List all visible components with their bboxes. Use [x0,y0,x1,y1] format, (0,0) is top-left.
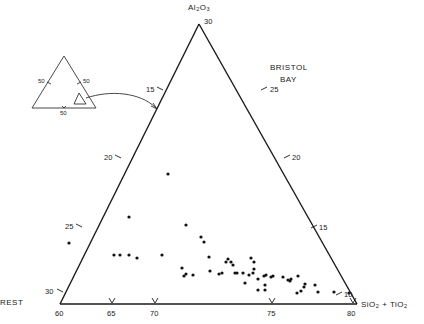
chart-title-line2: BAY [280,75,297,84]
data-point [160,253,163,256]
data-point [217,272,220,275]
tick-left-30: 30 [45,287,53,296]
data-point [166,172,169,175]
data-point [252,267,255,270]
tick-bottom-80: 80 [347,309,355,318]
data-point [252,260,255,263]
data-point [127,215,130,218]
data-point [249,256,252,259]
data-point [302,285,305,288]
data-point [281,275,284,278]
data-point [191,273,194,276]
main-triangle [60,24,357,304]
data-point [296,274,299,277]
data-point [264,273,267,276]
al2o3-formatted: Al2O3 [188,3,210,12]
tick-bottom-75: 75 [267,309,275,318]
ternary-chart [0,0,424,324]
data-point [180,266,183,269]
inset-tick-right: 50 [83,78,90,84]
data-point [224,260,227,263]
tick-bottom-70: 70 [150,309,158,318]
tick-bottom-60: 60 [55,309,63,318]
data-point [241,271,244,274]
data-point [316,290,319,293]
data-point [229,260,232,263]
data-point [118,253,121,256]
tick-left-15: 15 [146,85,154,94]
data-point [263,283,266,286]
data-point [220,271,223,274]
data-point [256,277,259,280]
data-point [202,240,205,243]
apex-axis-label: Al2O3 Al2O3 [188,3,210,12]
data-point [127,253,130,256]
tick-right-20: 20 [292,153,300,162]
data-point [251,271,254,274]
data-point [235,271,238,274]
data-point [207,255,210,258]
data-point [67,241,70,244]
tick-left-25: 25 [65,222,73,231]
inset-diagram [32,56,157,109]
data-point [271,274,274,277]
data-point [112,253,115,256]
data-point [208,269,211,272]
tick-marks [57,87,356,303]
data-point [295,291,298,294]
tick-left-20: 20 [104,153,112,162]
inset-tick-bottom: 50 [60,110,67,116]
data-point [135,256,138,259]
data-point [289,277,292,280]
tick-right-25: 25 [270,85,278,94]
data-point [313,283,316,286]
data-point [299,289,302,292]
data-point [247,273,250,276]
tick-right-10: 10 [344,290,352,299]
data-point [303,282,306,285]
inset-tick-left: 50 [38,78,45,84]
data-point [256,288,259,291]
tick-bottom-65: 65 [107,309,115,318]
data-point [263,288,266,291]
data-points [67,172,350,294]
apex-value: 30 [204,17,212,26]
data-point [332,290,335,293]
left-axis-label: REST [0,298,23,307]
chart-title-line1: BRISTOL [270,63,308,72]
tick-right-15: 15 [319,223,327,232]
right-axis-label: SiO2 + TiO2 [361,300,408,309]
data-point [243,281,246,284]
data-point [231,263,234,266]
data-point [226,257,229,260]
data-point [182,274,185,277]
data-point [184,223,187,226]
data-point [199,235,202,238]
